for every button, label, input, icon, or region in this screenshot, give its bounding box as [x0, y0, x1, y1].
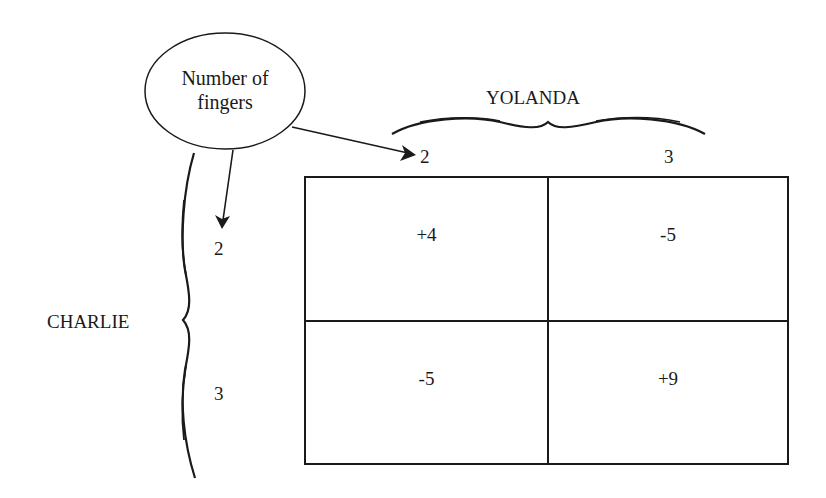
yolanda-brace-icon: [392, 118, 705, 134]
payoff-value: +4: [416, 224, 436, 246]
payoff-cell-2-2: +4: [306, 178, 549, 322]
payoff-cell-3-3: +9: [549, 322, 787, 463]
column-player-name: YOLANDA: [486, 88, 580, 107]
row-player-name: CHARLIE: [47, 312, 129, 331]
ellipse-label: Number of fingers: [146, 66, 304, 114]
payoff-cell-2-3: -5: [549, 178, 787, 322]
row-choice-2: 2: [214, 239, 224, 258]
ellipse-line-1: Number of: [146, 66, 304, 90]
column-choice-2: 2: [420, 147, 430, 166]
payoff-cell-3-2: -5: [306, 322, 549, 463]
column-choice-3: 3: [664, 147, 674, 166]
payoff-value: -5: [419, 368, 435, 390]
row-choice-3: 3: [214, 384, 224, 403]
arrow-to-row-2-icon: [215, 150, 233, 229]
ellipse-line-2: fingers: [146, 90, 304, 114]
payoff-matrix: +4 -5 -5 +9: [304, 176, 789, 465]
payoff-value: +9: [658, 368, 678, 390]
payoff-value: -5: [660, 224, 676, 246]
